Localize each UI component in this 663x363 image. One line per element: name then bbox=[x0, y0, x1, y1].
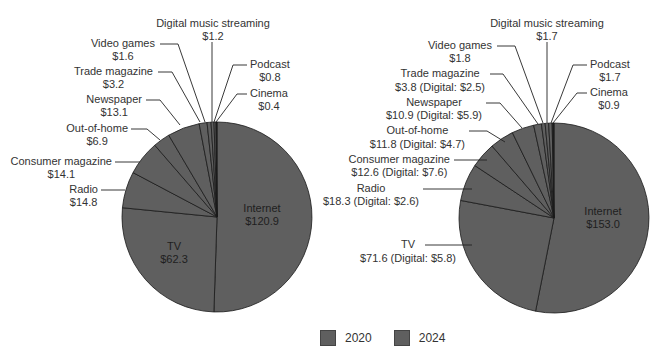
legend-item-2020: 2020 bbox=[320, 330, 372, 346]
slice-label-video-games: Video games bbox=[428, 39, 493, 51]
leader-line bbox=[551, 65, 587, 123]
slice-value-tv: $62.3 bbox=[160, 253, 188, 265]
slice-value-radio: $14.8 bbox=[70, 196, 98, 208]
slice-value-out-of-home: $11.8 (Digital: $4.7) bbox=[370, 138, 465, 150]
leader-line bbox=[131, 129, 160, 140]
leader-line bbox=[160, 44, 205, 122]
slice-label-cinema: Cinema bbox=[250, 87, 289, 99]
leader-line bbox=[486, 103, 522, 128]
pie-charts: Internet$120.9TV$62.3Radio$14.8Consumer … bbox=[0, 0, 663, 363]
slice-label-digital-music-streaming: Digital music streaming bbox=[490, 17, 604, 29]
slice-label-newspaper: Newspaper bbox=[406, 96, 462, 108]
slice-label-tv: TV bbox=[167, 240, 182, 252]
slice-value-podcast: $1.7 bbox=[599, 71, 620, 83]
slice-value-trade-magazine: $3.8 (Digital: $2.5) bbox=[395, 81, 485, 93]
slice-value-newspaper: $10.9 (Digital: $5.9) bbox=[386, 109, 482, 121]
leader-line bbox=[214, 65, 247, 122]
leader-line bbox=[146, 100, 180, 125]
slice-label-internet: Internet bbox=[243, 202, 280, 214]
slice-label-radio: Radio bbox=[357, 182, 386, 194]
pie-chart-2024: Internet$153.0TV$71.6 (Digital: $5.8)Rad… bbox=[323, 17, 649, 313]
pie-chart-2020: Internet$120.9TV$62.3Radio$14.8Consumer … bbox=[11, 17, 312, 312]
slice-value-newspaper: $13.1 bbox=[100, 106, 128, 118]
slice-value-digital-music-streaming: $1.7 bbox=[536, 30, 557, 42]
slice-label-podcast: Podcast bbox=[250, 58, 290, 70]
slice-value-radio: $18.3 (Digital: $2.6) bbox=[323, 195, 419, 207]
slice-label-consumer-magazine: Consumer magazine bbox=[349, 153, 451, 165]
slice-label-newspaper: Newspaper bbox=[86, 93, 142, 105]
slice-value-digital-music-streaming: $1.2 bbox=[202, 30, 223, 42]
leader-line bbox=[553, 93, 587, 123]
slice-value-internet: $120.9 bbox=[245, 215, 279, 227]
legend: 2020 2024 bbox=[320, 330, 445, 346]
slice-value-podcast: $0.8 bbox=[259, 71, 280, 83]
slice-value-cinema: $0.4 bbox=[258, 100, 279, 112]
leader-line bbox=[216, 94, 247, 122]
leader-line bbox=[490, 74, 538, 124]
leader-line bbox=[158, 72, 200, 122]
slice-label-trade-magazine: Trade magazine bbox=[401, 67, 480, 79]
legend-swatch-icon bbox=[320, 330, 336, 346]
slice-label-radio: Radio bbox=[69, 183, 98, 195]
slice-label-digital-music-streaming: Digital music streaming bbox=[156, 17, 270, 29]
slice-value-trade-magazine: $3.2 bbox=[103, 78, 124, 90]
legend-item-2024: 2024 bbox=[394, 330, 446, 346]
slice-value-out-of-home: $6.9 bbox=[86, 135, 107, 147]
slice-label-internet: Internet bbox=[584, 205, 621, 217]
slice-label-out-of-home: Out-of-home bbox=[66, 122, 128, 134]
slice-value-tv: $71.6 (Digital: $5.8) bbox=[360, 252, 456, 264]
legend-swatch-icon bbox=[394, 330, 410, 346]
slice-label-trade-magazine: Trade magazine bbox=[74, 65, 153, 77]
slice-label-video-games: Video games bbox=[91, 37, 156, 49]
slice-label-out-of-home: Out-of-home bbox=[387, 124, 449, 136]
slice-value-video-games: $1.6 bbox=[112, 50, 133, 62]
slice-label-cinema: Cinema bbox=[590, 86, 629, 98]
legend-label: 2024 bbox=[419, 331, 446, 345]
leader-line bbox=[497, 46, 543, 123]
slice-value-consumer-magazine: $14.1 bbox=[48, 168, 76, 180]
slice-label-podcast: Podcast bbox=[590, 58, 630, 70]
legend-label: 2020 bbox=[345, 331, 372, 345]
slice-value-video-games: $1.8 bbox=[449, 52, 470, 64]
slice-label-consumer-magazine: Consumer magazine bbox=[11, 155, 113, 167]
slice-label-tv: TV bbox=[401, 238, 416, 250]
slice-value-cinema: $0.9 bbox=[598, 99, 619, 111]
slice-value-internet: $153.0 bbox=[586, 218, 620, 230]
slice-value-consumer-magazine: $12.6 (Digital: $7.6) bbox=[351, 166, 447, 178]
